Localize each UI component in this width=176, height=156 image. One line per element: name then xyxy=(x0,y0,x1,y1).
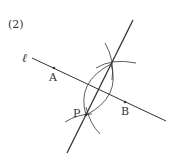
point-b xyxy=(124,101,127,104)
point-a-label: A xyxy=(48,71,58,84)
point-p xyxy=(85,114,88,117)
problem-number: (2) xyxy=(8,18,24,31)
point-p-label: P xyxy=(73,107,81,120)
point-a xyxy=(53,67,56,70)
geometry-diagram: (2) ℓ A B P xyxy=(0,0,176,156)
perpendicular-line xyxy=(67,20,133,153)
construction-arc-top-horizontal xyxy=(96,61,136,68)
line-l-label: ℓ xyxy=(22,51,27,65)
point-b-label: B xyxy=(121,105,129,118)
